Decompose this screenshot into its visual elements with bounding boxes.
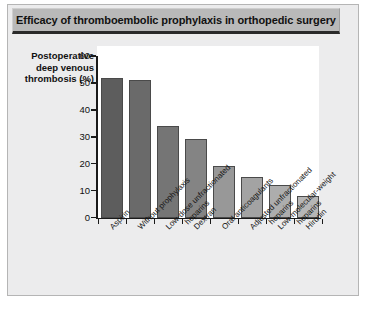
y-tick-mark: [91, 136, 96, 138]
y-tick-label: 60: [79, 50, 90, 61]
y-tick-label: 0: [85, 212, 90, 223]
bar: [129, 80, 151, 217]
y-tick-label: 50: [79, 77, 90, 88]
y-axis-ticks: 0102030405060: [0, 0, 96, 311]
x-tick-mark: [98, 219, 99, 224]
chart-figure: Efficacy of thromboembolic prophylaxis i…: [0, 0, 366, 311]
y-tick-label: 10: [79, 185, 90, 196]
y-tick-label: 40: [79, 104, 90, 115]
y-tick-mark: [91, 163, 96, 165]
y-tick-mark: [91, 190, 96, 192]
y-tick-label: 20: [79, 158, 90, 169]
bar: [101, 78, 123, 218]
y-tick-mark: [91, 82, 96, 84]
y-tick-mark: [91, 109, 96, 111]
y-tick-mark: [91, 217, 96, 219]
y-tick-mark: [91, 55, 96, 57]
y-tick-label: 30: [79, 131, 90, 142]
